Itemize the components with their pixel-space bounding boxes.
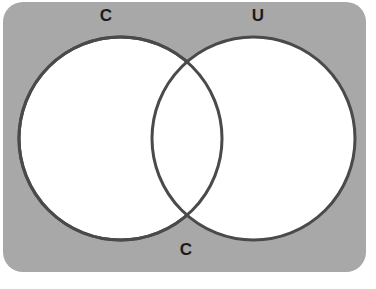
set-label-top-left: C: [100, 6, 112, 25]
set-label-top-right: U: [252, 6, 264, 25]
right-set-circle: [152, 37, 355, 240]
venn-diagram-figure: C U C: [0, 0, 376, 289]
set-label-bottom-center: C: [180, 240, 192, 259]
venn-diagram-canvas: C U C: [0, 0, 376, 289]
